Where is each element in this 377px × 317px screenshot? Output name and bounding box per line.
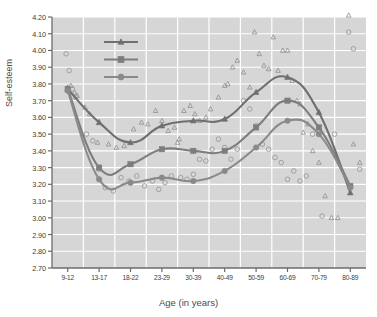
series-marker-total bbox=[159, 146, 164, 151]
series-marker-total bbox=[96, 165, 101, 170]
series-marker-females bbox=[222, 168, 228, 174]
series-marker-total bbox=[128, 162, 133, 167]
series-marker-total bbox=[222, 148, 227, 153]
legend-marker-square bbox=[118, 57, 124, 63]
series-marker-females bbox=[316, 131, 322, 137]
series-marker-females bbox=[348, 185, 354, 191]
series-marker-females bbox=[96, 177, 102, 183]
series-marker-females bbox=[191, 178, 197, 184]
series-marker-females bbox=[253, 145, 259, 151]
plot-canvas bbox=[0, 0, 377, 317]
self-esteem-by-age-chart: Self-esteem Age (in years) 2.702.802.903… bbox=[0, 0, 377, 317]
series-marker-females bbox=[65, 88, 71, 94]
series-marker-total bbox=[285, 98, 290, 103]
series-marker-females bbox=[159, 175, 165, 181]
series-marker-females bbox=[128, 180, 134, 186]
series-marker-total bbox=[316, 125, 321, 130]
series-marker-total bbox=[191, 148, 196, 153]
legend-marker-circle bbox=[118, 74, 124, 80]
series-marker-females bbox=[285, 118, 291, 124]
series-marker-total bbox=[253, 125, 258, 130]
